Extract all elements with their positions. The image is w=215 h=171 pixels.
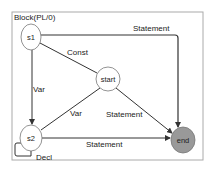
edge-start-s2: Var xyxy=(41,88,100,130)
edge-start-end: Statement xyxy=(106,88,172,133)
edge-label-var-vertical: Var xyxy=(33,85,45,94)
edge-label-statement-top: Statement xyxy=(133,24,170,33)
edge-s1-s2: Var xyxy=(32,50,45,124)
edge-label-statement-bottom: Statement xyxy=(86,140,123,149)
node-s2: s2 xyxy=(20,125,42,151)
state-diagram: Block(PL/0) Statement Const Var Var Stat… xyxy=(0,0,215,171)
edge-label-const: Const xyxy=(67,48,89,57)
edge-s1-start: Const xyxy=(40,43,97,73)
node-end: end xyxy=(171,127,195,153)
edge-label-statement-diagonal: Statement xyxy=(106,110,143,119)
node-s1: s1 xyxy=(21,24,41,50)
node-start: start xyxy=(96,67,120,91)
diagram-title: Block(PL/0) xyxy=(14,13,56,22)
edge-label-decl: Decl xyxy=(36,153,52,162)
svg-text:s1: s1 xyxy=(27,33,35,42)
svg-text:start: start xyxy=(101,75,117,84)
svg-text:end: end xyxy=(177,136,190,145)
edge-s2-end: Statement xyxy=(42,138,170,149)
svg-text:s2: s2 xyxy=(27,134,35,143)
edge-label-var-diagonal: Var xyxy=(70,109,82,118)
